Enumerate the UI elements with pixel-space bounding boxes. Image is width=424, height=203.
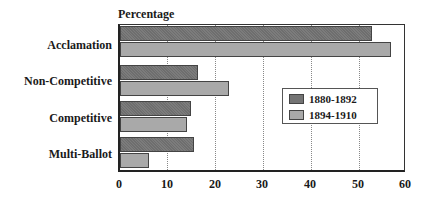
bar-acclamation-1880-1892 xyxy=(120,26,372,41)
x-tick: 10 xyxy=(161,177,173,192)
legend-item-1894-1910: 1894-1910 xyxy=(289,109,357,121)
bar-competitive-1880-1892 xyxy=(120,101,191,116)
bar-multi-ballot-1880-1892 xyxy=(120,137,194,152)
bar-multi-ballot-1894-1910 xyxy=(120,153,149,168)
legend: 1880-1892 1894-1910 xyxy=(282,88,378,124)
legend-label: 1894-1910 xyxy=(309,109,357,121)
x-tick: 30 xyxy=(256,177,268,192)
x-tick: 60 xyxy=(399,177,411,192)
category-label-acclamation: Acclamation xyxy=(47,38,112,53)
bar-competitive-1894-1910 xyxy=(120,117,187,132)
axis-title: Percentage xyxy=(118,7,174,22)
category-label-competitive: Competitive xyxy=(49,111,112,126)
x-tick: 20 xyxy=(209,177,221,192)
x-tick: 50 xyxy=(352,177,364,192)
legend-item-1880-1892: 1880-1892 xyxy=(289,93,357,105)
bar-acclamation-1894-1910 xyxy=(120,42,391,57)
x-tick: 40 xyxy=(304,177,316,192)
legend-swatch-light xyxy=(289,110,304,120)
x-tick: 0 xyxy=(116,177,122,192)
category-label-non-competitive: Non-Competitive xyxy=(24,74,112,89)
bar-non-competitive-1894-1910 xyxy=(120,81,229,96)
category-label-multi-ballot: Multi-Ballot xyxy=(49,147,112,162)
legend-label: 1880-1892 xyxy=(309,93,357,105)
legend-swatch-dark xyxy=(289,94,304,104)
bar-non-competitive-1880-1892 xyxy=(120,65,198,80)
